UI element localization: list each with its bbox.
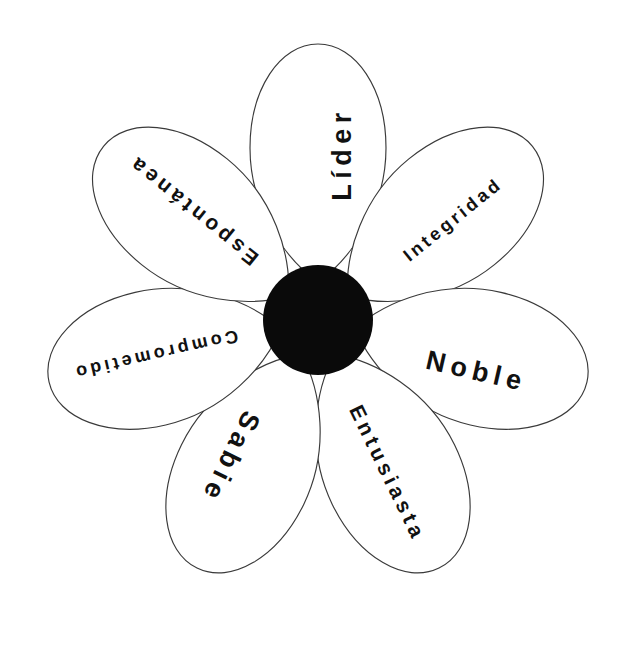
- daisy-diagram-canvas: Líder Integridad Noble Entusiasta Sabie …: [0, 0, 620, 646]
- flower-center-disc[interactable]: [263, 265, 373, 375]
- label-group-lider: Líder: [327, 107, 357, 201]
- daisy-svg: Líder Integridad Noble Entusiasta Sabie …: [0, 0, 620, 646]
- petal-label-lider: Líder: [327, 107, 357, 201]
- petals-group: Líder Integridad Noble Entusiasta Sabie …: [34, 44, 602, 598]
